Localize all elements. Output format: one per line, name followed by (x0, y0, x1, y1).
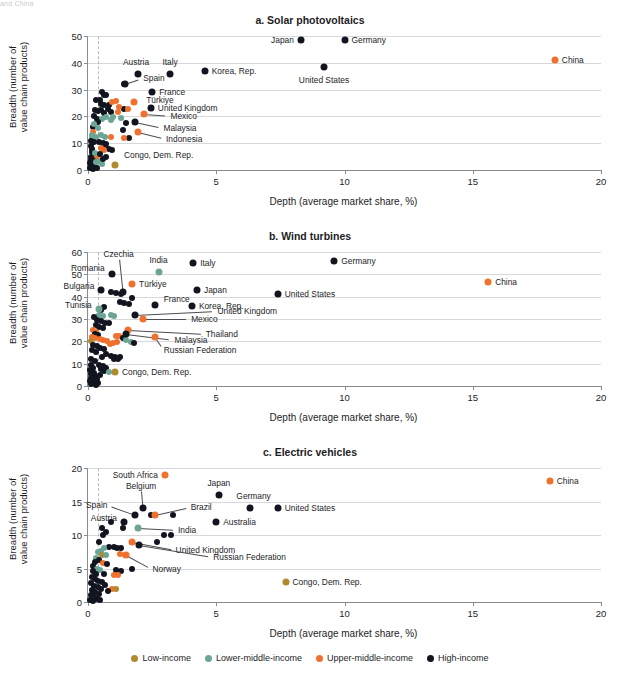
point-label-belgium: Belgium (126, 482, 156, 491)
data-point (131, 340, 137, 346)
x-axis-label-b: Depth (average market share, %) (87, 412, 600, 423)
y-tick-label: 15 (71, 496, 82, 507)
gridline (88, 502, 601, 503)
legend-label: Upper-middle-income (327, 653, 413, 663)
data-point (103, 351, 109, 357)
y-tick-label: 20 (71, 111, 82, 122)
data-point (104, 561, 110, 567)
point-label-germany: Germany (236, 492, 270, 501)
point-label-russian-federation: Russian Federation (164, 345, 237, 354)
data-point-indonesia (135, 129, 142, 136)
data-point-belgium (140, 505, 147, 512)
gridline (88, 468, 601, 469)
panel-title-b: b. Wind turbines (0, 230, 620, 242)
data-point (100, 156, 106, 162)
data-point (105, 588, 111, 594)
plot-area-c: 0510152005101520South AfricaChinaJapanGe… (87, 468, 601, 602)
x-tick-label: 0 (85, 176, 90, 187)
legend-label: Low-income (142, 653, 191, 663)
point-label-korea-rep: Korea, Rep. (212, 66, 257, 75)
y-tick-label: 30 (71, 314, 82, 325)
x-tick-label: 15 (467, 392, 478, 403)
point-label-italy: Italy (200, 259, 215, 268)
data-point (100, 325, 106, 331)
data-point (109, 147, 115, 153)
legend-item-low-income[interactable]: Low-income (131, 653, 191, 663)
x-tick-label: 15 (467, 608, 478, 619)
y-tick-mark (84, 319, 88, 320)
x-tick-label: 5 (214, 392, 219, 403)
data-point-tunisia (95, 305, 102, 312)
x-tick-label: 10 (339, 176, 350, 187)
data-point-united-kingdom (147, 105, 154, 112)
y-axis-label-a: Breadth (number ofvalue chain products) (7, 22, 29, 152)
point-label-bulgaria: Bulgaria (64, 281, 95, 290)
data-point (121, 135, 127, 141)
x-tick-label: 20 (596, 608, 607, 619)
point-label-australia: Australia (223, 517, 256, 526)
point-label-spain: Spain (86, 500, 107, 509)
data-point-norway (123, 552, 130, 559)
y-tick-mark (84, 252, 88, 253)
y-axis-label-b: Breadth (number ofvalue chain products) (7, 238, 29, 368)
point-label-congo-dem-rep: Congo, Dem. Rep. (124, 150, 193, 159)
data-point-mexico (141, 110, 148, 117)
panel-wind-turbines: b. Wind turbines Breadth (number ofvalue… (0, 230, 620, 440)
y-tick-label: 10 (71, 358, 82, 369)
data-point-romania (108, 271, 115, 278)
data-point (97, 372, 103, 378)
data-point (168, 532, 174, 538)
plot-area-a: 0102030405005101520JapanGermanyChinaUnit… (87, 36, 601, 170)
point-label-russian-federation: Russian Federation (213, 553, 286, 562)
point-label-china: China (562, 56, 584, 65)
legend-item-high-income[interactable]: High-income (427, 653, 489, 663)
data-point-italy (167, 70, 174, 77)
x-tick-label: 0 (85, 392, 90, 403)
data-point-china (546, 478, 553, 485)
data-point (103, 552, 109, 558)
data-point-china (551, 57, 558, 64)
point-label-india: India (178, 526, 196, 535)
gridline (88, 364, 601, 365)
data-point-malaysia (132, 118, 139, 125)
x-tick-mark (216, 602, 217, 606)
legend-item-upper-middle-income[interactable]: Upper-middle-income (316, 653, 413, 663)
data-point (110, 114, 116, 120)
gridline (88, 143, 601, 144)
point-label-france: France (164, 295, 190, 304)
panel-title-c: c. Electric vehicles (0, 446, 620, 458)
data-point-united-kingdom (132, 311, 139, 318)
point-label-malaysia: Malaysia (163, 123, 196, 132)
point-label-brazil: Brazil (191, 502, 212, 511)
legend-swatch-icon (316, 655, 323, 662)
data-point-united-states (320, 63, 327, 70)
annotation-leader-line (138, 528, 173, 531)
data-point-china (485, 279, 492, 286)
data-point-australia (213, 518, 220, 525)
data-point (103, 92, 109, 98)
annotation-leader-line (143, 319, 186, 320)
point-label-germany: Germany (352, 35, 386, 44)
point-label-united-states: United States (299, 75, 349, 84)
data-point-germany (246, 505, 253, 512)
data-point (101, 571, 107, 577)
point-label-united-states: United States (285, 290, 335, 299)
legend-label: High-income (438, 653, 489, 663)
data-point (116, 104, 122, 110)
data-point-czechia (119, 289, 126, 296)
data-point (161, 532, 167, 538)
x-tick-label: 20 (596, 392, 607, 403)
legend-item-lower-middle-income[interactable]: Lower-middle-income (205, 653, 302, 663)
data-point (123, 120, 129, 126)
point-label-spain: Spain (143, 73, 164, 82)
data-point-t-rkiye (129, 281, 136, 288)
data-point (115, 572, 121, 578)
data-point (90, 598, 96, 604)
legend-swatch-icon (427, 655, 434, 662)
point-label-congo-dem-rep: Congo, Dem. Rep. (122, 368, 191, 377)
x-tick-mark (473, 170, 474, 174)
panel-title-a: a. Solar photovoltaics (0, 14, 620, 26)
point-label-austria: Austria (123, 57, 149, 66)
point-label-romania: Romania (71, 264, 105, 273)
data-point-malaysia (123, 330, 130, 337)
